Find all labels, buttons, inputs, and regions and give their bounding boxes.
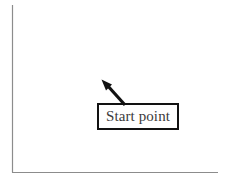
figure-canvas: Start point bbox=[0, 0, 228, 180]
start-point-callout-box[interactable]: Start point bbox=[97, 103, 179, 130]
axes-group bbox=[0, 0, 228, 180]
start-point-label: Start point bbox=[106, 109, 170, 124]
